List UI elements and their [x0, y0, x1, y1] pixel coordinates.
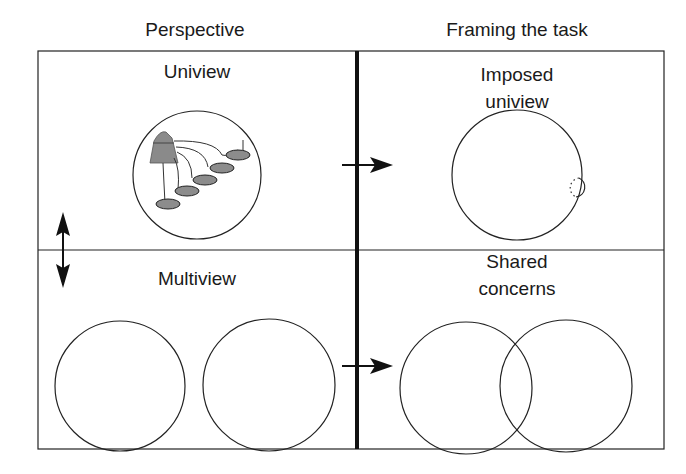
shared-circle-left: [400, 322, 532, 454]
label-multiview: Multiview: [120, 267, 274, 291]
stone-3: [193, 175, 217, 185]
label-shared-concerns: Shared concerns: [437, 248, 597, 302]
header-perspective: Perspective: [95, 18, 295, 42]
imposed-uniview-circle: [452, 110, 582, 240]
label-imposed-uniview: Imposed uniview: [437, 61, 597, 115]
multiview-circle-left: [55, 321, 185, 451]
arrow-right-top-icon: [342, 157, 393, 173]
bump-dotted: [570, 178, 579, 197]
uniview-circle: [133, 111, 261, 239]
imposed-uniview-illustration: [452, 110, 585, 240]
stone-5: [156, 199, 180, 209]
arrow-right-bottom-icon: [342, 358, 393, 374]
stone-4: [175, 186, 199, 196]
stone-2: [210, 163, 234, 173]
uniview-illustration: [133, 111, 261, 239]
label-uniview: Uniview: [120, 60, 274, 84]
header-framing-the-task: Framing the task: [417, 18, 617, 42]
stone-1: [226, 150, 250, 160]
shared-circle-right: [500, 320, 632, 452]
multiview-circle-right: [203, 319, 335, 451]
